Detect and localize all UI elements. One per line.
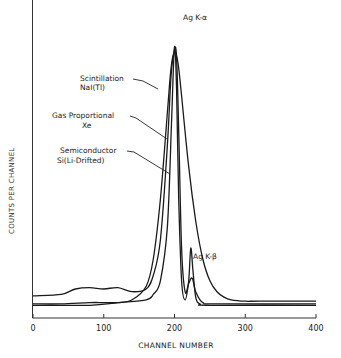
label-scintillation: Scintillation bbox=[80, 75, 124, 83]
x-tick-label: 100 bbox=[96, 325, 111, 333]
label-semiconductor: Semiconductor bbox=[60, 147, 116, 155]
label-xe: Xe bbox=[82, 122, 91, 130]
label-nai: NaI(Tl) bbox=[80, 84, 105, 92]
x-tick-label: 200 bbox=[167, 325, 182, 333]
leader-scintillation bbox=[133, 79, 158, 89]
x-axis-label: CHANNEL NUMBER bbox=[138, 341, 213, 350]
label-ag-k-beta: Ag K-β bbox=[193, 253, 217, 261]
label-gas-proportional: Gas Proportional bbox=[52, 112, 114, 120]
series-gas-proportional bbox=[33, 47, 316, 304]
x-tick-label: 0 bbox=[30, 325, 35, 333]
x-tick-label: 300 bbox=[238, 325, 253, 333]
leader-gas-proportional bbox=[130, 116, 167, 139]
x-tick-label: 400 bbox=[308, 325, 323, 333]
series-semiconductor bbox=[33, 46, 316, 305]
y-axis-label: COUNTS PER CHANNEL bbox=[8, 147, 16, 234]
label-ag-k-alpha: Ag K-α bbox=[183, 14, 207, 22]
x-ticks bbox=[33, 314, 316, 318]
series-group bbox=[33, 46, 316, 305]
spectrum-chart bbox=[0, 0, 341, 358]
label-si-li: Si(Li-Drifted) bbox=[57, 157, 104, 165]
series-scintillation bbox=[33, 52, 316, 304]
